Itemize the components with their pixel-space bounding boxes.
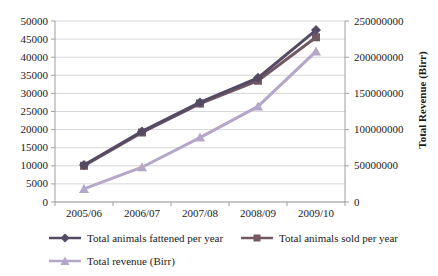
axis-tick-label: 35000 [21, 69, 49, 81]
axis-tick-label: 15000 [21, 141, 49, 153]
axis-tick-label: 2007/08 [182, 207, 219, 219]
legend-label-sold: Total animals sold per year [279, 232, 398, 244]
axis-tick-label: 2005/06 [66, 207, 103, 219]
axis-tick-label: 50000000 [354, 159, 399, 171]
axis-tick-label: 20000 [21, 123, 49, 135]
square-marker-icon [240, 232, 274, 244]
axis-tick-label: 2009/10 [298, 207, 335, 219]
axis-tick-label: 200000000 [354, 51, 404, 63]
axis-tick-label: 2006/07 [124, 207, 161, 219]
legend-item-sold: Total animals sold per year [240, 231, 398, 245]
legend-item-revenue: Total revenue (Birr) [48, 254, 175, 268]
axis-tick-label: 45000 [21, 33, 49, 45]
axis-tick-label: 0 [354, 196, 360, 208]
axis-tick-label: 5000 [26, 177, 49, 189]
axis-tick-label: 0 [43, 196, 49, 208]
axis-tick-label: 50000 [21, 15, 49, 27]
legend-item-fattened: Total animals fattened per year [48, 231, 223, 245]
legend-label-revenue: Total revenue (Birr) [87, 255, 175, 267]
axis-tick-label: 10000 [21, 159, 49, 171]
series-diamond [79, 25, 321, 170]
right-axis-title: Total Revenue (Birr) [416, 0, 432, 200]
right-axis-labels: 0500000001000000001500000002000000002500… [354, 15, 404, 208]
chart-figure: 0500010000150002000025000300003500040000… [0, 0, 438, 276]
axis-tick-label: 2008/09 [240, 207, 277, 219]
left-axis-labels: 0500010000150002000025000300003500040000… [21, 15, 49, 208]
axis-tick-label: 25000 [21, 105, 49, 117]
axis-tick-label: 100000000 [354, 123, 404, 135]
x-axis-labels: 2005/062006/072007/082008/092009/10 [66, 207, 335, 219]
axis-tick-label: 250000000 [354, 15, 404, 27]
tick-marks [51, 21, 349, 206]
series-triangle [79, 46, 321, 193]
legend-label-fattened: Total animals fattened per year [87, 232, 223, 244]
axis-tick-label: 30000 [21, 87, 49, 99]
diamond-marker-icon [48, 232, 82, 244]
triangle-marker-icon [48, 255, 82, 267]
axis-tick-label: 150000000 [354, 87, 404, 99]
axis-tick-label: 40000 [21, 51, 49, 63]
